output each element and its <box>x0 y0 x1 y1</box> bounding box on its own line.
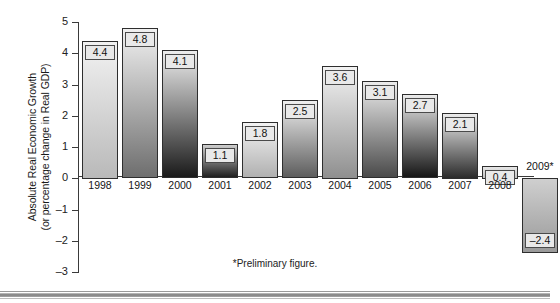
y-tick-3 <box>72 85 79 86</box>
x-axis-label-1998: 1998 <box>80 179 120 191</box>
x-axis-label-1999: 1999 <box>120 179 160 191</box>
bar-value-label-2003: 2.5 <box>285 104 315 119</box>
y-tick-5 <box>72 22 79 23</box>
y-tick-label: 0 <box>44 171 68 183</box>
bar-value-label-2005: 3.1 <box>365 85 395 100</box>
y-tick-neg2 <box>72 241 79 242</box>
y-tick-label: 1 <box>44 140 68 152</box>
bar-value-label-2007: 2.1 <box>445 117 475 132</box>
bar-value-label-2000: 4.1 <box>165 54 195 69</box>
x-axis-label-2008: 2008 <box>480 179 520 191</box>
y-tick-label: –2 <box>44 234 68 246</box>
x-axis-label-2005: 2005 <box>360 179 400 191</box>
bar-value-label-2001: 1.1 <box>205 148 235 163</box>
bar-1998 <box>82 41 118 179</box>
y-tick-label: 5 <box>44 15 68 27</box>
page-rule-band <box>0 293 550 297</box>
bar-2000 <box>162 50 198 178</box>
x-axis-label-2001: 2001 <box>200 179 240 191</box>
y-tick-label: 2 <box>44 109 68 121</box>
y-tick-label: 4 <box>44 46 68 58</box>
x-axis-label-2009: 2009* <box>520 160 560 172</box>
y-tick-0 <box>72 178 79 179</box>
bar-value-label-2004: 3.6 <box>325 70 355 85</box>
x-axis-label-2007: 2007 <box>440 179 480 191</box>
y-tick-label: –1 <box>44 203 68 215</box>
y-tick-1 <box>72 147 79 148</box>
bar-value-label-2006: 2.7 <box>405 98 435 113</box>
y-tick-4 <box>72 53 79 54</box>
page-rule-top <box>0 291 550 292</box>
y-tick-2 <box>72 116 79 117</box>
bar-value-label-1998: 4.4 <box>85 45 115 60</box>
x-axis-label-2003: 2003 <box>280 179 320 191</box>
y-tick-label: 3 <box>44 78 68 90</box>
bar-value-label-1999: 4.8 <box>125 32 155 47</box>
x-axis-label-2000: 2000 <box>160 179 200 191</box>
chart-footnote: *Preliminary figure. <box>0 258 550 269</box>
bar-1999 <box>122 28 158 178</box>
y-tick-neg1 <box>72 210 79 211</box>
x-axis-label-2006: 2006 <box>400 179 440 191</box>
y-tick-neg3 <box>72 272 79 273</box>
y-axis-title-line-1: Absolute Real Economic Growth <box>26 73 39 221</box>
x-axis-label-2002: 2002 <box>240 179 280 191</box>
page-rule-bottom <box>0 298 550 299</box>
x-axis-label-2004: 2004 <box>320 179 360 191</box>
bar-value-label-2002: 1.8 <box>245 126 275 141</box>
bar-value-label-2009: –2.4 <box>525 233 555 248</box>
